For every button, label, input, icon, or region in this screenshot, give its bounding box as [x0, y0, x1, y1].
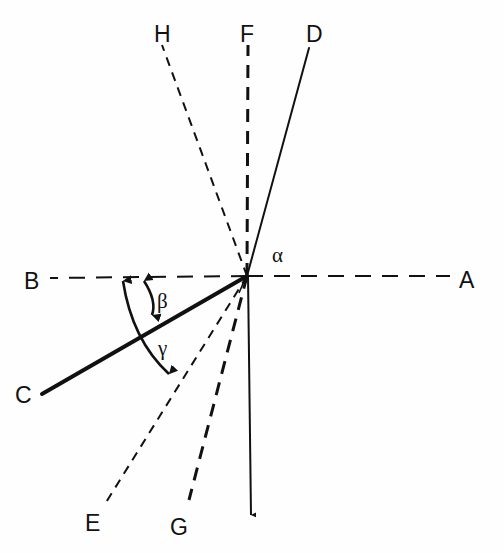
- ray-label-a: A: [459, 267, 475, 293]
- ray-c-line: [42, 276, 247, 394]
- ray-h-line: [162, 45, 247, 276]
- angle-label-beta: β: [157, 289, 168, 313]
- angle-label-gamma: γ: [157, 336, 167, 360]
- ray-f-line: [247, 45, 248, 276]
- ray-f-down-line: [248, 276, 251, 515]
- ray-label-d: D: [306, 21, 323, 47]
- ray-label-h: H: [154, 21, 171, 47]
- diagram-canvas: H F D B A C E G α β γ: [0, 0, 504, 553]
- ray-label-g: G: [170, 514, 188, 540]
- ray-label-e: E: [85, 510, 100, 536]
- ray-d-line: [247, 48, 309, 276]
- ray-g-line: [189, 276, 247, 500]
- angle-diagram: H F D B A C E G α β γ: [0, 0, 504, 553]
- ray-b-line: [50, 276, 247, 278]
- beta-arc: [144, 281, 153, 315]
- ray-e-line: [105, 276, 247, 504]
- ray-label-f: F: [240, 21, 254, 47]
- ray-label-c: C: [15, 382, 32, 408]
- angle-label-alpha: α: [272, 243, 283, 267]
- ray-label-b: B: [24, 268, 39, 294]
